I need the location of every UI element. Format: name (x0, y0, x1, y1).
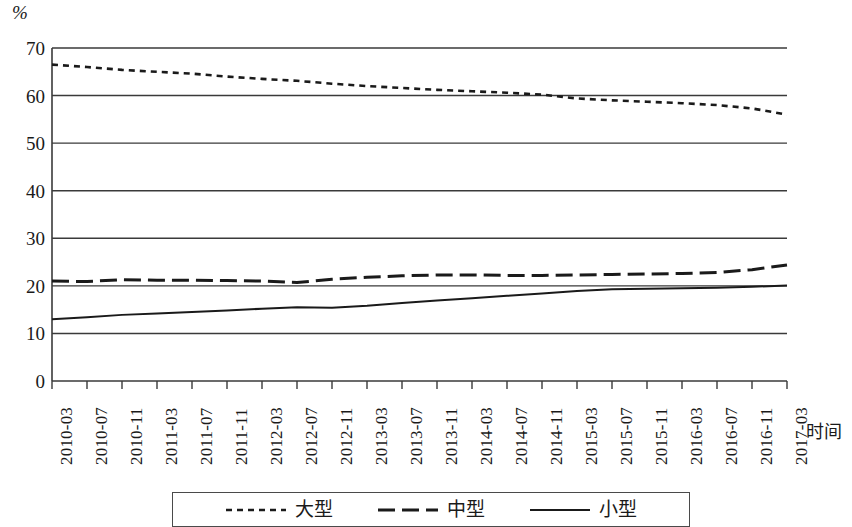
gridlines (52, 48, 787, 333)
legend-swatch-dashed (377, 504, 439, 516)
legend-label: 大型 (295, 500, 333, 519)
series-line-1 (52, 265, 787, 283)
line-chart: % 010203040506070 2010-032010-072010-112… (0, 0, 852, 527)
x-axis-title: 时间 (806, 417, 842, 443)
x-axis-ticks (52, 381, 787, 389)
series-line-0 (52, 65, 787, 115)
legend-swatch-solid (529, 504, 591, 516)
legend-swatch-dotted (225, 504, 287, 516)
axis-lines (52, 48, 787, 381)
legend-label: 小型 (599, 500, 637, 519)
legend-item: 大型 (225, 500, 333, 519)
legend-item: 中型 (377, 500, 485, 519)
series-line-2 (52, 285, 787, 319)
plot-area (0, 0, 852, 527)
series-lines (52, 65, 787, 320)
legend-item: 小型 (529, 500, 637, 519)
legend-label: 中型 (447, 500, 485, 519)
chart-legend: 大型中型小型 (172, 492, 690, 527)
